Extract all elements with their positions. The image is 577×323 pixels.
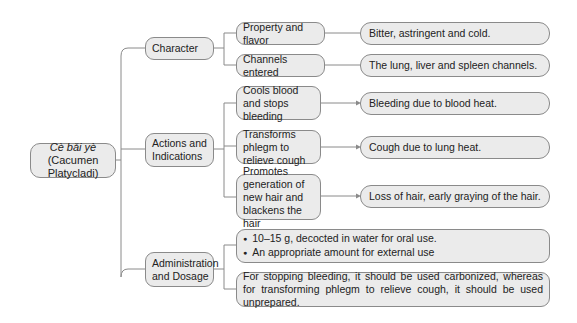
node-usage-note: For stopping bleeding, it should be used… <box>236 272 550 307</box>
branch-administration-dosage: Administration and Dosage <box>145 252 214 287</box>
node-property-flavor: Property and flavor <box>236 22 325 45</box>
branch-character: Character <box>145 37 214 60</box>
dosage-bullet-external: An appropriate amount for external use <box>243 246 434 260</box>
node-promotes-hair: Promotes generation of new hair and blac… <box>236 174 321 220</box>
detail-loss-of-hair: Loss of hair, early graying of the hair. <box>360 185 550 208</box>
node-cools-blood: Cools blood and stops bleeding <box>236 86 321 120</box>
root-node: Cè bǎi yè (Cacumen Platycladi) <box>30 143 116 178</box>
node-dosage: 10–15 g, decocted in water for oral use.… <box>236 229 550 263</box>
dosage-bullet-oral: 10–15 g, decocted in water for oral use. <box>243 232 437 246</box>
branch-actions-indications: Actions and Indications <box>145 133 214 167</box>
root-title-pinyin: Cè bǎi yè <box>50 141 96 154</box>
detail-channels-entered: The lung, liver and spleen channels. <box>360 54 550 77</box>
detail-bleeding-blood-heat: Bleeding due to blood heat. <box>360 92 550 115</box>
detail-cough-lung-heat: Cough due to lung heat. <box>360 136 550 159</box>
detail-property-flavor: Bitter, astringent and cold. <box>360 22 550 45</box>
node-channels-entered: Channels entered <box>236 54 325 77</box>
root-title-latin: (Cacumen Platycladi) <box>37 154 109 180</box>
node-transforms-phlegm: Transforms phlegm to relieve cough <box>236 130 321 164</box>
